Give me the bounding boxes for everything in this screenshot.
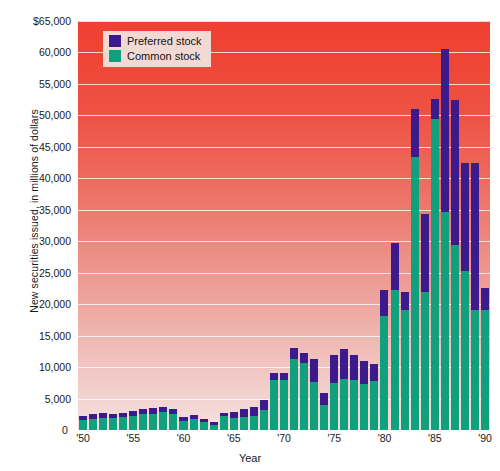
bar-79 [370,364,378,430]
bar-85 [431,99,439,430]
bar-segment-common-stock [411,157,419,430]
x-axis-tick-label: '60 [177,432,191,444]
bar-66 [240,409,248,430]
bar-77 [350,355,358,431]
y-axis-tick-labels: 05,00010,00015,00020,00025,00030,00035,0… [0,0,78,471]
bar-90 [481,288,489,430]
y-axis-tick-label: 60,000 [39,46,71,58]
bar-89 [471,163,479,430]
legend-item: Common stock [109,50,202,62]
x-axis-tick-label: '70 [277,432,291,444]
bar-segment-common-stock [421,292,429,430]
bar-segment-common-stock [481,310,489,430]
chart-legend: Preferred stockCommon stock [103,31,211,67]
bar-segment-common-stock [169,414,177,430]
bar-segment-common-stock [190,419,198,430]
bar-segment-common-stock [461,271,469,430]
legend-label: Common stock [127,50,200,62]
bar-segment-common-stock [119,417,127,430]
bar-segment-common-stock [350,380,358,430]
y-axis-tick-label: 40,000 [39,172,71,184]
stacked-bar-chart: New securities issued, in millions of do… [0,0,500,471]
bar-segment-preferred-stock [391,243,399,290]
bar-segment-preferred-stock [421,214,429,293]
bar-86 [441,49,449,430]
bar-62 [200,419,208,430]
legend-swatch-icon [109,35,121,47]
y-axis-tick-label: 30,000 [39,235,71,247]
y-axis-zero-label: 0 [62,424,68,436]
bar-segment-preferred-stock [431,99,439,119]
bar-segment-common-stock [441,212,449,430]
bar-52 [99,413,107,430]
bar-segment-common-stock [360,384,368,430]
bar-80 [380,290,388,430]
bar-segment-common-stock [99,418,107,430]
bar-segment-preferred-stock [411,109,419,157]
bar-segment-preferred-stock [300,353,308,362]
x-axis-tick-label: '90 [478,432,492,444]
bar-segment-common-stock [320,405,328,430]
bar-segment-common-stock [109,418,117,430]
bar-segment-preferred-stock [471,163,479,310]
bar-57 [149,408,157,430]
bar-segment-common-stock [270,380,278,430]
bar-segment-common-stock [159,412,167,430]
bar-segment-common-stock [280,380,288,430]
bar-segment-preferred-stock [380,290,388,316]
y-axis-tick-label: 20,000 [39,298,71,310]
bar-70 [280,373,288,430]
bar-segment-preferred-stock [451,100,459,245]
y-axis-tick-label: 50,000 [39,109,71,121]
bar-segment-preferred-stock [310,359,318,382]
bar-88 [461,163,469,430]
bar-segment-common-stock [431,119,439,430]
bar-75 [330,355,338,431]
bar-segment-common-stock [340,379,348,430]
x-axis-tick-label: '80 [378,432,392,444]
bar-segment-common-stock [260,410,268,430]
bar-50 [79,416,87,430]
bar-segment-preferred-stock [290,348,298,359]
bar-segment-common-stock [79,420,87,430]
bar-84 [421,214,429,430]
bar-segment-preferred-stock [401,292,409,311]
bar-68 [260,400,268,430]
x-axis-tick-label: '55 [126,432,140,444]
bar-segment-common-stock [89,419,97,430]
bar-54 [119,413,127,430]
bar-segment-common-stock [401,310,409,430]
bar-segment-preferred-stock [250,407,258,415]
y-axis-tick-label: 15,000 [39,330,71,342]
bar-segment-preferred-stock [370,364,378,381]
bar-segment-common-stock [330,383,338,430]
bar-87 [451,100,459,430]
bar-69 [270,373,278,430]
bar-segment-common-stock [250,416,258,430]
bar-72 [300,353,308,430]
bar-segment-preferred-stock [350,355,358,380]
bar-segment-common-stock [370,381,378,430]
bar-74 [320,393,328,430]
legend-swatch-icon [109,50,121,62]
bar-segment-preferred-stock [330,355,338,384]
legend-label: Preferred stock [127,35,202,47]
x-axis-tick-label: '85 [428,432,442,444]
y-axis-tick-label: 5,000 [45,393,71,405]
x-axis-title: Year [0,452,500,464]
bar-58 [159,407,167,430]
bar-segment-preferred-stock [320,393,328,405]
bar-82 [401,292,409,430]
bar-segment-preferred-stock [360,361,368,384]
bar-59 [169,409,177,430]
bar-segment-common-stock [310,382,318,430]
bar-61 [190,415,198,430]
bar-segment-common-stock [240,417,248,430]
legend-item: Preferred stock [109,35,202,47]
bar-segment-common-stock [200,422,208,430]
bar-segment-common-stock [149,414,157,430]
bar-segment-preferred-stock [260,400,268,409]
x-axis-tick-label: '50 [76,432,90,444]
bar-83 [411,109,419,430]
y-axis-tick-label: 55,000 [39,78,71,90]
